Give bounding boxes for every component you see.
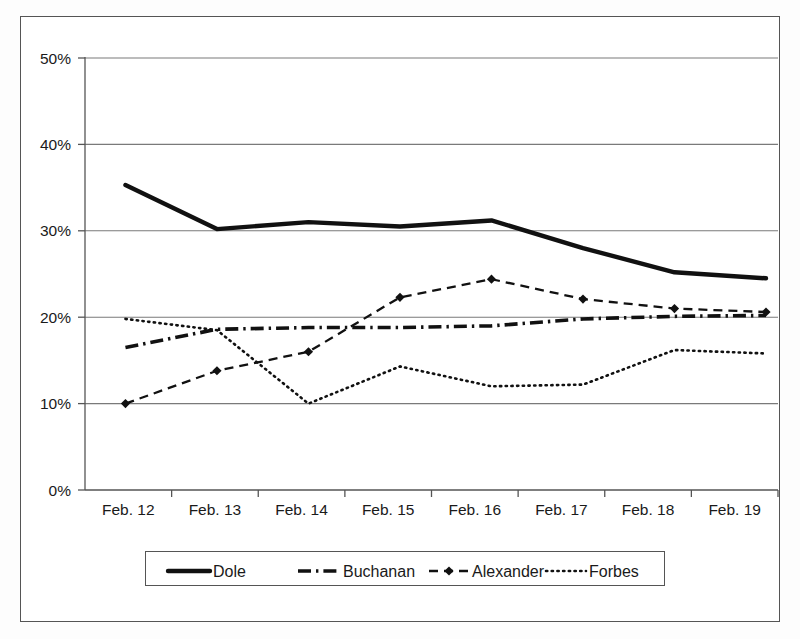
y-tick-label-10%: 10% [40, 395, 71, 412]
x-tick-label-Feb--17: Feb. 17 [535, 501, 588, 518]
legend-label-dole: Dole [213, 563, 246, 580]
y-axis-tick-labels: 0%10%20%30%40%50% [40, 50, 71, 499]
y-tick-label-40%: 40% [40, 136, 71, 153]
series-marker-alexander-1 [212, 366, 221, 375]
gridlines [85, 58, 778, 404]
x-tick-label-Feb--16: Feb. 16 [449, 501, 502, 518]
series-line-dole [125, 185, 766, 278]
chart-page: 0%10%20%30%40%50% Feb. 12Feb. 13Feb. 14F… [0, 0, 800, 639]
x-tick-label-Feb--15: Feb. 15 [362, 501, 415, 518]
y-tick-label-20%: 20% [40, 309, 71, 326]
legend-label-alexander: Alexander [472, 563, 545, 580]
series-line-forbes [125, 319, 766, 404]
legend-marker-alexander [444, 566, 453, 575]
y-tick-label-50%: 50% [40, 50, 71, 67]
x-tick-label-Feb--14: Feb. 14 [275, 501, 328, 518]
data-series [121, 185, 771, 408]
series-line-alexander [125, 279, 766, 403]
legend-label-buchanan: Buchanan [343, 563, 415, 580]
series-marker-alexander-4 [487, 275, 496, 284]
x-tick-label-Feb--18: Feb. 18 [622, 501, 675, 518]
series-marker-alexander-0 [121, 399, 130, 408]
x-tick-label-Feb--12: Feb. 12 [102, 501, 155, 518]
y-tick-label-30%: 30% [40, 222, 71, 239]
series-marker-alexander-6 [670, 304, 679, 313]
axis-tickmarks [78, 58, 778, 497]
chart-legend: DoleBuchananAlexanderForbes [145, 551, 665, 586]
x-tick-label-Feb--19: Feb. 19 [708, 501, 761, 518]
x-axis-tick-labels: Feb. 12Feb. 13Feb. 14Feb. 15Feb. 16Feb. … [102, 501, 761, 518]
line-chart: 0%10%20%30%40%50% Feb. 12Feb. 13Feb. 14F… [0, 0, 800, 639]
legend-content: DoleBuchananAlexanderForbes [146, 552, 664, 585]
series-marker-alexander-5 [578, 294, 587, 303]
y-tick-label-0%: 0% [49, 482, 72, 499]
x-tick-label-Feb--13: Feb. 13 [189, 501, 242, 518]
series-line-buchanan [125, 315, 766, 347]
legend-label-forbes: Forbes [589, 563, 639, 580]
